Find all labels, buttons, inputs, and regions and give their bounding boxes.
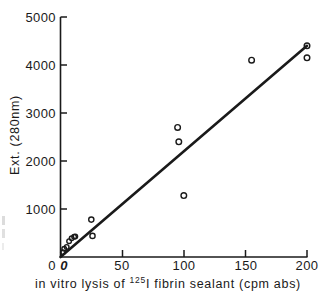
data-point	[304, 55, 310, 61]
y-tick-label-4000: 4000	[25, 58, 56, 73]
y-tick-label-2000: 2000	[25, 154, 56, 169]
x-axis-title: in vitro lysis of 125I fibrin sealant (c…	[35, 275, 301, 291]
y-axis-ticks	[61, 17, 68, 209]
regression-line	[61, 46, 308, 257]
x-tick-label-150: 150	[235, 258, 258, 273]
axes	[60, 17, 308, 258]
data-point	[89, 217, 94, 222]
x-tick-label-0: 0	[60, 258, 68, 273]
data-point	[90, 233, 95, 238]
x-axis-title-post: I fibrin sealant (cpm abs)	[146, 277, 301, 291]
scan-artifact-mark	[2, 243, 4, 250]
x-tick-label-100: 100	[173, 258, 196, 273]
data-point	[176, 139, 182, 145]
y-axis-title: Ext. (280nm)	[8, 95, 22, 175]
data-point	[249, 57, 255, 63]
data-point	[181, 193, 187, 199]
chart-figure: 5000 4000 3000 2000 1000 0 0 50 100 150 …	[0, 0, 331, 294]
x-tick-label-200: 200	[296, 258, 319, 273]
scan-artifact-mark	[2, 229, 5, 238]
y-tick-labels: 5000 4000 3000 2000 1000 0	[25, 10, 56, 273]
data-point	[64, 245, 69, 250]
scan-edge-artifacts	[2, 216, 5, 250]
x-axis-ticks	[61, 250, 307, 257]
data-point	[73, 234, 78, 239]
y-tick-label-1000: 1000	[25, 202, 56, 217]
data-point	[175, 125, 181, 131]
scatter-plot: 5000 4000 3000 2000 1000 0 0 50 100 150 …	[0, 0, 331, 294]
x-tick-labels: 0 50 100 150 200	[60, 258, 318, 273]
x-axis-title-superscript: 125	[130, 275, 146, 285]
x-axis-title-pre: in vitro lysis of	[35, 277, 130, 291]
x-tick-label-50: 50	[114, 258, 129, 273]
y-tick-label-3000: 3000	[25, 106, 56, 121]
y-tick-label-0: 0	[48, 258, 56, 273]
y-tick-label-5000: 5000	[25, 10, 56, 25]
scan-artifact-mark	[2, 216, 5, 225]
